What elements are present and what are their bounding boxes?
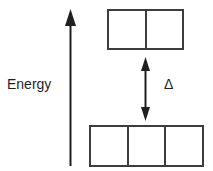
orbital-cell <box>109 11 145 48</box>
orbital-cell <box>91 127 127 165</box>
orbital-cell <box>164 127 202 165</box>
energy-axis-arrow <box>65 9 76 166</box>
delta-double-arrow <box>141 57 150 121</box>
delta-label: Δ <box>164 76 173 93</box>
orbital-cell <box>127 127 165 165</box>
energy-level-diagram: Energy Δ <box>0 0 213 171</box>
lower-energy-level <box>89 125 204 167</box>
energy-axis-label: Energy <box>7 76 51 93</box>
orbital-cell <box>145 11 183 48</box>
upper-energy-level <box>107 9 184 50</box>
